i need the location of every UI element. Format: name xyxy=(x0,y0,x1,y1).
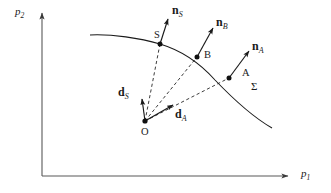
position-vector-dA xyxy=(145,105,173,121)
label-point-B: B xyxy=(204,50,211,61)
label-point-O: O xyxy=(141,127,149,138)
label-curve-sigma: Σ xyxy=(251,81,257,92)
label-normal-nB: nB xyxy=(216,16,228,31)
dashed-ray-O-S xyxy=(145,44,160,121)
label-point-A: A xyxy=(242,68,250,79)
label-normal-nA: nA xyxy=(252,40,264,55)
label-position-dS: dS xyxy=(118,86,129,101)
point-marker-A xyxy=(227,76,232,81)
point-marker-O xyxy=(142,118,147,123)
position-vector-dS xyxy=(142,99,145,121)
normal-vector-nS xyxy=(160,19,168,44)
dashed-ray-O-B xyxy=(145,57,197,121)
diagram-canvas xyxy=(0,0,331,193)
point-marker-S xyxy=(158,42,163,47)
label-point-S: S xyxy=(154,30,160,41)
point-marker-B xyxy=(195,55,200,60)
dashed-ray-O-A xyxy=(145,78,229,121)
label-normal-nS: nS xyxy=(172,4,183,19)
label-position-dA: dA xyxy=(175,108,187,123)
position-vectors-group xyxy=(142,99,173,121)
vector-diagram-figure: nS nB nA dS dA S B A O Σ p1 p2 xyxy=(0,0,331,193)
label-axis-p2: p2 xyxy=(15,6,24,20)
dashed-rays-group xyxy=(145,44,229,121)
axes-group xyxy=(42,13,288,176)
label-axis-p1: p1 xyxy=(301,168,310,182)
